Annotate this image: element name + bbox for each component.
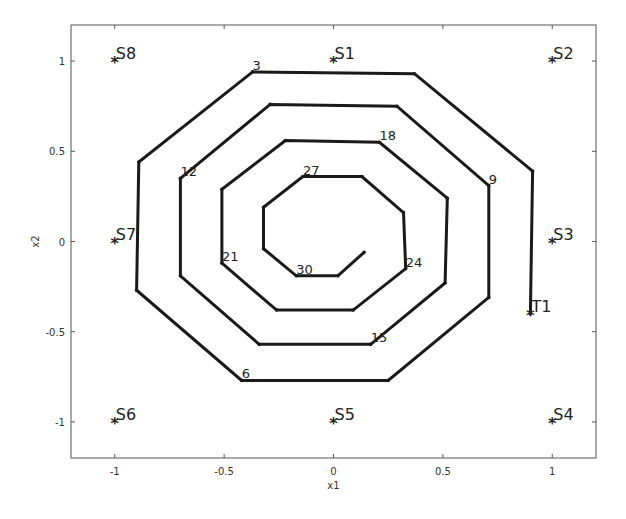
trajectory-vertex bbox=[275, 308, 279, 312]
station-label: T1 bbox=[530, 297, 551, 316]
point-index-label: 21 bbox=[222, 249, 239, 264]
trajectory-vertex bbox=[362, 251, 366, 255]
trajectory-vertex bbox=[360, 175, 364, 179]
y-tick-label: 0 bbox=[59, 237, 65, 248]
x-tick-label: 1 bbox=[549, 466, 555, 477]
trajectory-vertex bbox=[262, 205, 266, 209]
station-label: S4 bbox=[553, 405, 573, 424]
trajectory-vertex bbox=[351, 308, 355, 312]
point-index-label: 27 bbox=[303, 163, 320, 178]
trajectory-vertex bbox=[402, 211, 406, 215]
trajectory-vertex bbox=[445, 196, 449, 200]
trajectory-vertex bbox=[262, 247, 266, 251]
point-index-label: 6 bbox=[242, 366, 250, 381]
trajectory-vertex bbox=[395, 104, 399, 108]
trajectory-vertex bbox=[135, 288, 139, 292]
trajectory-vertex bbox=[220, 187, 224, 191]
x-tick-label: -0.5 bbox=[214, 466, 234, 477]
y-tick-label: -0.5 bbox=[45, 327, 65, 338]
y-tick-label: 0.5 bbox=[49, 146, 65, 157]
point-index-label: 12 bbox=[180, 164, 197, 179]
x-axis-label: x1 bbox=[327, 480, 339, 491]
x-tick-label: 0.5 bbox=[435, 466, 451, 477]
station-label: S7 bbox=[116, 225, 136, 244]
y-tick-label: -1 bbox=[55, 417, 65, 428]
trajectory-vertex bbox=[257, 343, 261, 347]
station-label: S8 bbox=[116, 44, 136, 63]
chart-canvas: -1-0.500.51 -1-0.500.51 x1 x2 3691215182… bbox=[0, 0, 626, 519]
trajectory-vertex bbox=[179, 274, 183, 278]
trajectory-vertex bbox=[487, 296, 491, 300]
trajectory-vertex bbox=[268, 103, 272, 107]
trajectory-vertex bbox=[531, 169, 535, 173]
trajectory-vertex bbox=[284, 139, 288, 143]
x-tick-label: -1 bbox=[110, 466, 120, 477]
point-index-label: 24 bbox=[406, 255, 423, 270]
station-label: S3 bbox=[553, 225, 573, 244]
y-axis-label: x2 bbox=[30, 235, 41, 247]
station-label: S6 bbox=[116, 405, 136, 424]
point-index-label: 9 bbox=[489, 172, 497, 187]
trajectory-vertex bbox=[413, 72, 417, 76]
point-index-label: 3 bbox=[253, 58, 261, 73]
point-index-label: 30 bbox=[296, 262, 313, 277]
station-label: S5 bbox=[335, 405, 355, 424]
trajectory-vertex bbox=[386, 379, 390, 383]
x-tick-label: 0 bbox=[330, 466, 336, 477]
station-label: S1 bbox=[335, 44, 355, 63]
trajectory-vertex bbox=[137, 160, 141, 164]
y-tick-label: 1 bbox=[59, 56, 65, 67]
trajectory-vertex bbox=[336, 274, 340, 278]
station-label: S2 bbox=[553, 44, 573, 63]
trajectory-vertex bbox=[443, 281, 447, 285]
point-index-label: 18 bbox=[379, 128, 396, 143]
point-index-label: 15 bbox=[371, 330, 388, 345]
